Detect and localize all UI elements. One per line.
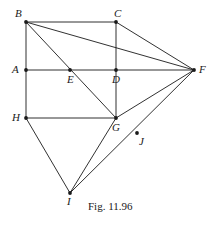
segment-bf bbox=[26, 22, 194, 70]
vertex-label-f: F bbox=[199, 64, 206, 75]
figure-caption: Fig. 11.96 bbox=[88, 200, 133, 212]
vertex-label-h: H bbox=[12, 112, 20, 123]
segment-gf bbox=[116, 70, 194, 118]
vertex-point-f bbox=[192, 68, 196, 72]
vertex-label-c: C bbox=[114, 8, 121, 19]
vertex-point-e bbox=[68, 68, 72, 72]
vertex-label-i: I bbox=[67, 196, 71, 207]
edges-group bbox=[26, 22, 194, 193]
vertex-label-d: D bbox=[112, 74, 120, 85]
geometry-figure: BCAEDFHGJI Fig. 11.96 bbox=[0, 0, 214, 226]
vertex-point-d bbox=[114, 68, 118, 72]
vertex-label-j: J bbox=[139, 136, 144, 147]
vertex-point-a bbox=[24, 68, 28, 72]
vertex-label-b: B bbox=[15, 8, 22, 19]
segment-cf bbox=[116, 22, 194, 70]
vertex-point-c bbox=[114, 20, 118, 24]
segment-hi bbox=[26, 118, 70, 193]
segment-gi bbox=[70, 118, 116, 193]
geometry-canvas bbox=[0, 0, 214, 226]
vertex-label-e: E bbox=[67, 74, 74, 85]
vertex-label-g: G bbox=[112, 122, 120, 133]
vertex-point-b bbox=[24, 20, 28, 24]
vertex-point-g bbox=[114, 116, 118, 120]
vertex-label-a: A bbox=[12, 64, 19, 75]
vertex-point-h bbox=[24, 116, 28, 120]
